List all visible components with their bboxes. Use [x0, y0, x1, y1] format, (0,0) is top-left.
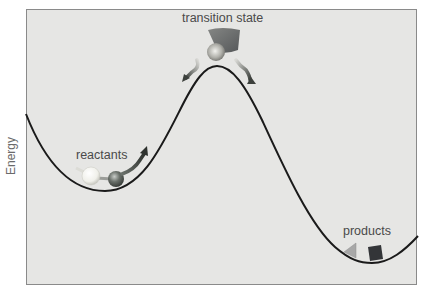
- product-square-icon: [368, 245, 383, 261]
- reactants-molecules-icon: [76, 167, 124, 187]
- transition-state-label: transition state: [182, 11, 263, 25]
- reactants-label: reactants: [76, 148, 127, 162]
- products-label: products: [343, 224, 391, 238]
- transition-state-complex-icon: [207, 28, 240, 61]
- arrow-right-icon: [236, 60, 250, 80]
- arrow-left-icon: [186, 60, 198, 78]
- energy-diagram: [0, 0, 423, 292]
- reactant-arrow-head-icon: [140, 146, 148, 156]
